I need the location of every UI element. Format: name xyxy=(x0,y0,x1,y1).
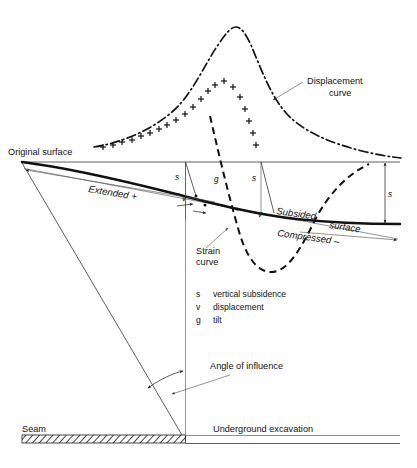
s-slant-left xyxy=(186,162,197,196)
displacement-curve xyxy=(94,27,401,158)
s-slant-mid xyxy=(261,162,274,213)
label-original-surface: Original surface xyxy=(8,147,72,157)
symbol-s-left: s xyxy=(175,173,179,182)
angle-of-influence-arc xyxy=(148,371,183,388)
angle-left-limit-line xyxy=(22,163,186,441)
v-arrow-left xyxy=(177,204,193,206)
label-surface: surface xyxy=(329,219,362,234)
symbol-s-right: s xyxy=(388,190,392,199)
strain-curve xyxy=(210,116,369,272)
subsidence-diagram: Original surface Displacement curve Exte… xyxy=(0,0,417,468)
key-meaning-g: tilt xyxy=(213,315,222,325)
label-strain-curve-line1: Strain xyxy=(196,246,220,256)
key-symbol-v: v xyxy=(196,302,201,312)
label-underground-excavation: Underground excavation xyxy=(213,424,313,434)
seam-and-excavation xyxy=(22,435,400,444)
subsided-surface-curve xyxy=(22,162,400,224)
label-displacement-curve-line1: Displacement xyxy=(307,76,363,86)
label-angle-of-influence: Angle of influence xyxy=(210,361,283,371)
figure-container: Original surface Displacement curve Exte… xyxy=(0,0,417,468)
seam-hatched-band xyxy=(22,435,186,443)
angle-of-influence-leader xyxy=(172,375,230,394)
key-meaning-s: vertical subsidence xyxy=(213,289,286,299)
key-symbol-g: g xyxy=(196,315,201,325)
v-arrow-mid xyxy=(193,211,206,213)
label-displacement-curve-line2: curve xyxy=(329,88,351,98)
symbol-key: s vertical subsidence v displacement g t… xyxy=(196,289,286,325)
symbol-g: g xyxy=(214,175,219,184)
strain-curve-leader xyxy=(206,228,228,248)
key-symbol-s: s xyxy=(196,289,200,299)
symbol-s-mid: s xyxy=(252,174,256,183)
label-seam: Seam xyxy=(22,424,46,434)
label-strain-curve-line2: curve xyxy=(196,257,218,267)
key-meaning-v: displacement xyxy=(213,302,264,312)
subsidence-construction-left xyxy=(177,162,196,219)
label-extended: Extended + xyxy=(88,183,138,202)
displacement-curve-leader xyxy=(273,82,303,100)
